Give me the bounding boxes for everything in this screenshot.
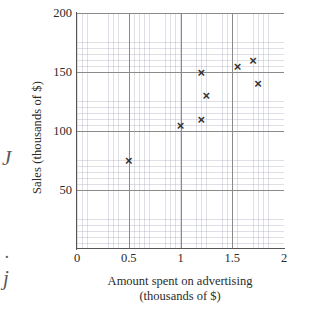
data-point-marker: × [232, 61, 243, 72]
x-tick-label: 1.5 [212, 252, 252, 265]
gridline-horizontal [77, 190, 284, 191]
y-tick-label: 150 [32, 66, 72, 79]
y-axis-line [76, 12, 77, 250]
data-point-marker: × [196, 114, 207, 125]
y-tick-label: 50 [32, 184, 72, 197]
y-axis-tick-labels: 50100150200 [28, 0, 72, 260]
data-point-marker: × [196, 67, 207, 78]
y-tick-label: 100 [32, 125, 72, 138]
gridline-horizontal [77, 13, 284, 14]
x-axis-line [76, 248, 285, 249]
data-point-marker: × [247, 55, 258, 66]
x-axis-title: Amount spent on advertising (thousands o… [60, 274, 300, 304]
x-tick-label: 1 [161, 252, 201, 265]
x-tick-label: 0 [57, 252, 97, 265]
x-axis-title-line-1: Amount spent on advertising [108, 274, 253, 288]
x-axis-title-line-2: (thousands of $) [60, 289, 300, 304]
plot-area: ×××××××× [77, 13, 284, 249]
scatter-chart-figure: Sales (thousands of $) 50100150200 ×××××… [0, 0, 314, 320]
data-point-marker: × [253, 78, 264, 89]
data-point-marker: × [175, 120, 186, 131]
x-tick-label: 0.5 [109, 252, 149, 265]
data-point-marker: × [201, 90, 212, 101]
data-point-marker: × [123, 155, 134, 166]
x-axis-tick-labels: 00.511.52 [0, 252, 314, 272]
x-tick-label: 2 [264, 252, 304, 265]
gridline-horizontal [77, 72, 284, 73]
y-tick-label: 200 [32, 7, 72, 20]
